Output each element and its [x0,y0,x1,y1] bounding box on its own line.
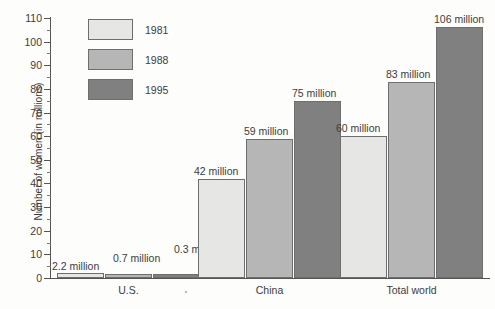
y-tick-major [44,113,51,114]
bar [246,139,293,278]
bar-value-label: 83 million [386,68,430,80]
y-tick-label-text: 80 [30,83,42,95]
bar [388,82,435,278]
bar [57,273,104,278]
legend-swatch-1981 [88,19,133,40]
y-tick-major [44,254,51,255]
y-tick-major [44,278,51,279]
bar-value-label: 106 million [434,13,484,25]
group-label: U.S. [57,284,200,296]
legend-label-1988: 1988 [145,54,168,66]
y-tick-major [44,183,51,184]
y-tick-label: 50 [0,160,42,161]
bar [294,101,341,278]
bar [436,27,483,278]
bar [153,274,200,278]
bar [198,179,245,278]
y-tick-minor [47,243,51,244]
scan-speck [185,291,187,293]
y-tick-minor [47,148,51,149]
bar-value-label: 0.7 million [113,252,160,264]
y-tick-major [44,89,51,90]
bar-value-label: 59 million [244,125,288,137]
y-tick-label-text: 20 [30,225,42,237]
y-tick-minor [47,30,51,31]
y-tick-label: 90 [0,65,42,66]
y-tick-major [44,65,51,66]
y-tick-minor [47,101,51,102]
y-tick-major [44,207,51,208]
y-tick-minor [47,172,51,173]
y-tick-major [44,18,51,19]
bar-value-label: 42 million [194,165,238,177]
y-tick-label-text: 30 [30,201,42,213]
bar-chart: Number of women (in millions) 1101009080… [0,0,495,309]
y-tick-major [44,160,51,161]
y-tick-label: 0 [0,278,42,279]
y-tick-label-text: 10 [30,248,42,260]
y-tick-label: 80 [0,89,42,90]
y-tick-label-text: 50 [30,154,42,166]
bar-value-label: 75 million [292,87,336,99]
y-tick-label-text: 40 [30,177,42,189]
y-tick-label: 20 [0,231,42,232]
group-label: China [198,284,341,296]
y-tick-minor [47,77,51,78]
y-tick-label-text: 70 [30,107,42,119]
y-tick-label: 30 [0,207,42,208]
y-tick-label-text: 90 [30,59,42,71]
bar-value-label: 2.2 million [52,260,99,272]
y-tick-label: 100 [0,42,42,43]
bar [105,274,152,278]
y-tick-label: 70 [0,113,42,114]
y-tick-label-text: 100 [24,36,42,48]
x-axis-line [50,278,490,279]
y-tick-minor [47,195,51,196]
y-tick-label-text: 0 [36,272,42,284]
legend-swatch-1988 [88,49,133,70]
y-tick-label: 10 [0,254,42,255]
y-tick-minor [47,266,51,267]
y-tick-label-text: 110 [25,12,42,24]
y-tick-minor [47,219,51,220]
legend-swatch-1995 [88,79,133,100]
y-tick-label-text: 60 [30,130,42,142]
y-tick-major [44,136,51,137]
group-label: Total world [340,284,483,296]
y-tick-major [44,42,51,43]
y-tick-minor [47,53,51,54]
y-tick-label: 60 [0,136,42,137]
y-tick-major [44,231,51,232]
legend-label-1981: 1981 [145,24,168,36]
y-tick-minor [47,124,51,125]
bar [340,136,387,278]
y-tick-label: 110 [0,18,42,19]
legend-label-1995: 1995 [145,84,168,96]
bar-value-label: 60 million [336,122,380,134]
y-tick-label: 40 [0,183,42,184]
